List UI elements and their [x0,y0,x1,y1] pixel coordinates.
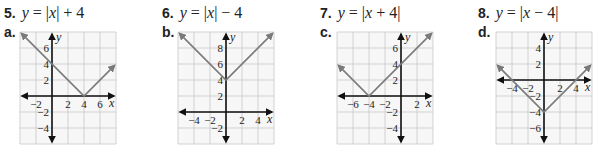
graph-b: xy−4−2248642−2 [178,32,274,144]
x-axis-label: x [584,80,591,94]
problem-8: 8.y = |x − 4| d. xy−4−22442−2−4−6 [478,0,604,155]
x-axis-label: x [266,112,273,126]
eq-mid: = | [503,4,523,21]
x-tick-label: −4 [363,98,375,110]
y-tick-label: −2 [386,106,398,118]
x-tick-label: −4 [188,114,200,126]
y-tick-label: 6 [393,42,399,54]
y-tick-label: 2 [393,74,399,86]
answer-letter: c. [320,24,332,40]
equation: y = |x| − 4 [180,4,243,21]
y-tick-label: 4 [536,42,542,54]
x-tick-label: 2 [239,114,245,126]
y-tick-label: −2 [529,90,541,102]
x-tick-label: −6 [347,98,359,110]
problem-title: 6.y = |x| − 4 [162,4,242,22]
problem-title: 7.y = |x + 4| [320,4,400,22]
equation: y = |x − 4| [496,4,559,21]
problem-number: 7. [320,5,332,21]
y-axis-label: y [55,30,62,44]
x-axis-label: x [108,96,115,110]
problem-number: 5. [4,5,16,21]
x-tick-label: 4 [81,98,87,110]
graph-c: xy−6−4−22642−2−4 [337,32,433,144]
x-tick-label: 2 [414,98,420,110]
graph-d: xy−4−22442−2−4−6 [496,32,592,144]
y-tick-label: 2 [218,90,224,102]
x-tick-label: 2 [65,98,71,110]
y-tick-label: −2 [211,122,223,134]
y-axis-label: y [229,30,236,44]
y-tick-label: −4 [37,122,49,134]
eq-end: + 4| [372,4,400,21]
y-tick-label: 6 [44,42,50,54]
answer-letter: b. [162,24,174,40]
eq-mid: = | [345,4,365,21]
eq-y: y [180,4,187,21]
equation: y = |x| + 4 [22,4,85,21]
y-tick-label: 2 [44,74,50,86]
problem-5: 5.y = |x| + 4 a. xy−2246642−2−4 [4,0,154,155]
eq-mid: = | [187,4,207,21]
problem-6: 6.y = |x| − 4 b. xy−4−2248642−2 [162,0,312,155]
eq-y: y [338,4,345,21]
y-tick-label: −6 [529,122,541,134]
problem-7: 7.y = |x + 4| c. xy−6−4−22642−2−4 [320,0,470,155]
problem-number: 8. [478,5,490,21]
eq-end: | − 4 [214,4,242,21]
equation: y = |x + 4| [338,4,401,21]
graph-a: xy−2246642−2−4 [20,32,116,144]
y-tick-label: 8 [218,42,224,54]
x-tick-label: 4 [255,114,261,126]
x-tick-label: 4 [573,82,579,94]
eq-y: y [22,4,29,21]
x-tick-label: 2 [557,82,563,94]
x-tick-label: 6 [97,98,103,110]
answer-letter: d. [478,24,490,40]
eq-mid: = | [29,4,49,21]
y-tick-label: −2 [37,106,49,118]
problem-number: 6. [162,5,174,21]
eq-end: | + 4 [56,4,84,21]
problem-title: 8.y = |x − 4| [478,4,558,22]
y-tick-label: 2 [536,58,542,70]
y-axis-label: y [404,30,411,44]
eq-y: y [496,4,503,21]
y-axis-label: y [547,30,554,44]
answer-letter: a. [4,24,16,40]
problem-title: 5.y = |x| + 4 [4,4,84,22]
y-tick-label: −4 [386,122,398,134]
y-tick-label: 6 [218,58,224,70]
eq-end: − 4| [530,4,558,21]
x-axis-label: x [425,96,432,110]
